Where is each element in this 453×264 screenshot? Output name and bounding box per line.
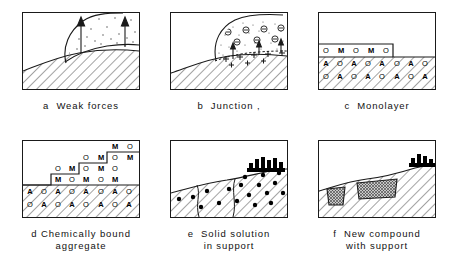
- panel-e-support-hatch: [171, 141, 287, 217]
- panel-d-drawing: M O O M O M O M O M O M O M O M A: [22, 140, 140, 218]
- panel-f-support-hatch: [319, 141, 435, 217]
- panel-a-caption-letter: a: [43, 100, 49, 111]
- panel-f-drawing: [318, 140, 436, 218]
- panel-b-caption-letter: b: [198, 100, 204, 111]
- panel-a-svg: [23, 13, 139, 89]
- panel-c-drawing: O M O M O A O A O A O A O O A O A O A O: [318, 12, 436, 90]
- panel-b-caption-text: Junction ,: [211, 100, 261, 111]
- panel-c-support-hatch: [319, 57, 435, 89]
- panel-d-caption-text-2: aggregate: [56, 240, 107, 251]
- panel-a-drawing: [22, 12, 140, 90]
- panel-a-caption-text: Weak forces: [56, 100, 119, 111]
- panel-e-caption-text: Solid solution: [201, 228, 270, 239]
- panel-d-svg: [23, 141, 139, 217]
- figure-metal-support-interaction: a Weak forces: [0, 0, 453, 264]
- panel-d-caption-text: Chemically bound: [41, 228, 131, 239]
- panel-e-surface-cluster: [247, 157, 285, 172]
- panel-f-caption-text: New compound: [344, 228, 421, 239]
- panel-f-svg: [319, 141, 435, 217]
- panel-d-support-hatch: [23, 185, 139, 217]
- panel-b-drawing: [170, 12, 288, 90]
- panel-c-caption-text: Monolayer: [357, 100, 409, 111]
- panel-d-caption: d Chemically boundaggregate: [12, 228, 150, 252]
- panel-d-aggregate-staircase: [23, 152, 139, 185]
- panel-f-caption-letter: f: [333, 228, 337, 239]
- panel-e-caption-letter: e: [188, 228, 194, 239]
- panel-b-svg: [171, 13, 287, 89]
- panel-c-caption-letter: c: [344, 100, 350, 111]
- panel-d-caption-letter: d: [31, 228, 37, 239]
- panel-e-caption-text-2: in support: [204, 240, 255, 251]
- panel-f-compound-inclusion-center: [357, 179, 397, 199]
- panel-f-caption: f New compoundwith support: [308, 228, 446, 252]
- panel-e-drawing: [170, 140, 288, 218]
- panel-f-surface-cluster: [409, 154, 435, 167]
- panel-c-svg: [319, 13, 435, 89]
- panel-f-caption-text-2: with support: [346, 240, 408, 251]
- panel-c-monolayer-step: [319, 44, 435, 57]
- panel-b-caption: b Junction ,: [170, 100, 288, 112]
- panel-e-caption: e Solid solutionin support: [160, 228, 298, 252]
- panel-a-caption: a Weak forces: [22, 100, 140, 112]
- panel-f-compound-inclusion-left: [327, 187, 345, 205]
- panel-e-svg: [171, 141, 287, 217]
- panel-c-caption: c Monolayer: [318, 100, 436, 112]
